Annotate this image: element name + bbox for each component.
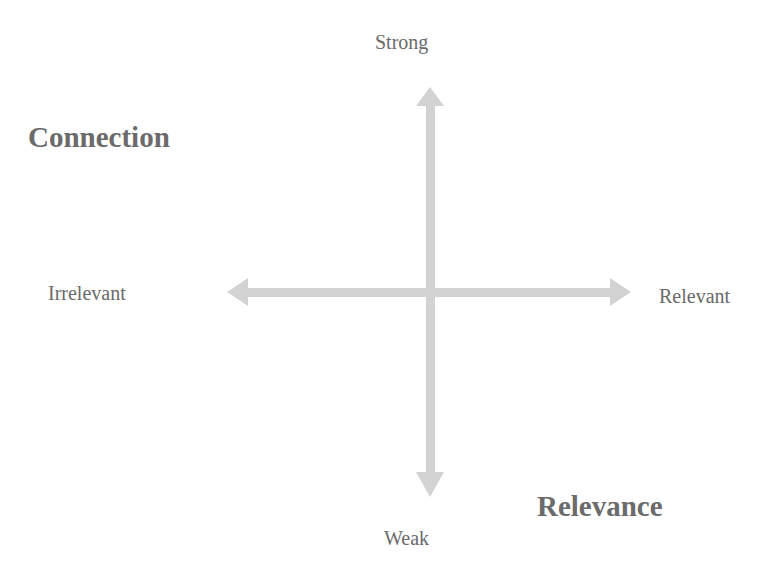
label-weak: Weak bbox=[384, 527, 429, 550]
arrow-left-icon bbox=[227, 278, 248, 306]
label-irrelevant: Irrelevant bbox=[48, 282, 126, 305]
arrow-up-icon bbox=[416, 87, 444, 106]
arrow-down-icon bbox=[416, 472, 444, 497]
arrow-right-icon bbox=[610, 278, 631, 306]
title-relevance: Relevance bbox=[537, 490, 663, 523]
label-relevant: Relevant bbox=[659, 285, 730, 308]
label-strong: Strong bbox=[375, 31, 428, 54]
title-connection: Connection bbox=[28, 121, 170, 154]
horizontal-axis-shaft bbox=[245, 288, 613, 297]
